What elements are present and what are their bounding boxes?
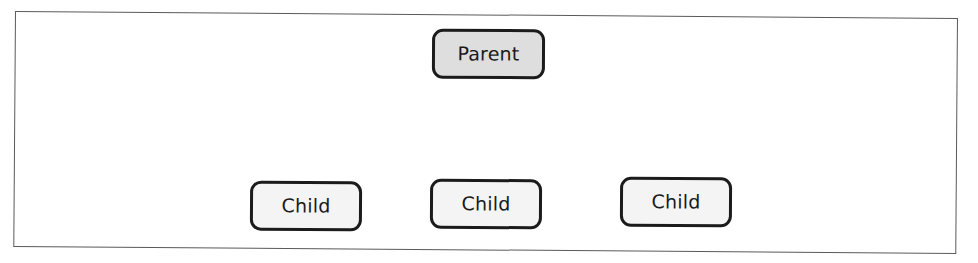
child-node-1[interactable]: Child: [250, 181, 362, 232]
child-node-3-label: Child: [651, 192, 700, 211]
child-node-1-label: Child: [281, 196, 330, 215]
node-layer: Parent Child Child Child: [0, 0, 978, 263]
child-node-2-label: Child: [461, 194, 510, 213]
child-node-2[interactable]: Child: [430, 179, 542, 230]
child-node-3[interactable]: Child: [620, 177, 732, 228]
parent-node-label: Parent: [457, 44, 519, 63]
parent-node[interactable]: Parent: [432, 29, 545, 80]
figure-canvas: Parent Child Child Child: [0, 0, 978, 263]
